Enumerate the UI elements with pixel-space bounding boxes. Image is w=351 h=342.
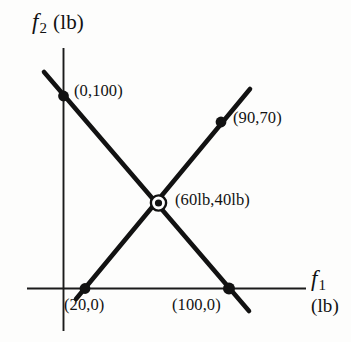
y-axis-symbol: f bbox=[32, 9, 39, 34]
marker-point-20-0 bbox=[80, 283, 91, 294]
figure-canvas bbox=[0, 0, 351, 342]
marker-point-0-100 bbox=[58, 91, 69, 102]
figure-container: f2(lb) f1 (lb) (0,100) (90,70) (60lb,40l… bbox=[0, 0, 351, 342]
x-axis-unit: (lb) bbox=[311, 296, 339, 315]
x-axis-label: f1 bbox=[311, 267, 326, 293]
y-axis-label: f2(lb) bbox=[32, 10, 84, 36]
point-label-20-0: (20,0) bbox=[64, 297, 104, 314]
y-axis-subscript: 2 bbox=[39, 20, 47, 36]
point-label-0-100: (0,100) bbox=[74, 83, 123, 100]
point-label-100-0: (100,0) bbox=[172, 297, 221, 314]
point-label-90-70: (90,70) bbox=[233, 110, 282, 127]
marker-point-90-70 bbox=[216, 117, 227, 128]
x-axis-subscript: 1 bbox=[318, 277, 326, 293]
y-axis-unit: (lb) bbox=[47, 10, 84, 34]
point-label-intersection: (60lb,40lb) bbox=[175, 192, 250, 209]
marker-intersection-dot bbox=[155, 199, 162, 206]
marker-point-100-0 bbox=[223, 283, 235, 295]
x-axis-symbol: f bbox=[311, 266, 318, 291]
